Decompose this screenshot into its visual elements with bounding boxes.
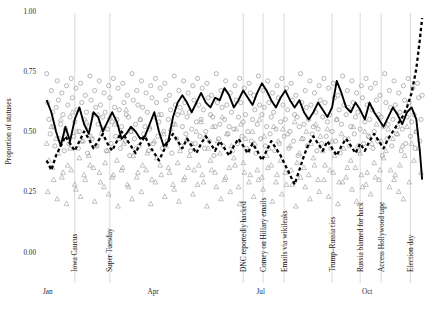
scatter-point — [275, 84, 279, 88]
scatter-point — [257, 103, 261, 107]
scatter-point — [163, 81, 167, 85]
scatter-point — [55, 79, 59, 83]
scatter-point — [166, 117, 170, 121]
scatter-point — [339, 122, 343, 126]
scatter-point — [45, 72, 49, 76]
scatter-point — [326, 86, 330, 90]
scatter-point — [317, 84, 321, 88]
scatter-point — [176, 113, 180, 117]
scatter-point — [181, 79, 185, 83]
scatter-point — [255, 167, 260, 171]
scatter-point — [227, 125, 231, 129]
scatter-point — [215, 100, 219, 104]
scatter-point — [48, 132, 52, 136]
scatter-point — [159, 172, 164, 176]
scatter-point — [97, 170, 102, 174]
scatter-point — [286, 108, 290, 112]
scatter-point — [94, 105, 98, 109]
scatter-point — [304, 105, 308, 109]
scatter-point — [287, 146, 291, 150]
scatter-point — [399, 149, 403, 153]
scatter-point — [246, 129, 250, 133]
scatter-point — [130, 72, 134, 76]
scatter-point — [298, 72, 302, 76]
scatter-point — [274, 180, 279, 184]
scatter-point — [353, 115, 357, 119]
scatter-point — [373, 81, 377, 85]
scatter-point — [122, 100, 126, 104]
scatter-point — [248, 172, 253, 176]
scatter-point — [219, 196, 224, 200]
scatter-point — [415, 81, 419, 85]
scatter-point — [302, 122, 306, 126]
scatter-point — [171, 182, 176, 186]
scatter-point — [227, 165, 232, 169]
scatter-point — [205, 204, 210, 208]
y-axis-tick-label: 0.75 — [23, 68, 36, 76]
scatter-point — [353, 165, 358, 169]
scatter-point — [175, 160, 180, 164]
scatter-point — [345, 88, 349, 92]
scatter-point — [402, 153, 407, 157]
scatter-point — [60, 91, 64, 95]
scatter-point — [368, 192, 373, 196]
scatter-point — [59, 175, 64, 179]
scatter-point — [238, 76, 242, 80]
scatter-point — [117, 108, 121, 112]
scatter-point — [283, 170, 288, 174]
scatter-point — [116, 204, 121, 208]
event-label: Emails via wikileaks — [280, 210, 289, 272]
scatter-point — [360, 96, 364, 100]
scatter-point — [56, 98, 60, 102]
scatter-point — [391, 136, 396, 140]
scatter-point — [149, 84, 153, 88]
scatter-point — [133, 122, 137, 126]
scatter-point — [412, 158, 417, 162]
scatter-point — [132, 137, 136, 141]
scatter-point — [280, 76, 284, 80]
x-axis-tick-label: Oct — [362, 288, 372, 296]
scatter-point — [271, 124, 276, 128]
scatter-point — [195, 76, 199, 80]
scatter-point — [255, 122, 259, 126]
scatter-point — [211, 115, 215, 119]
scatter-point — [228, 189, 233, 193]
scatter-point — [403, 98, 407, 102]
scatter-point — [77, 155, 82, 159]
scatter-point — [185, 115, 189, 119]
scatter-point — [62, 149, 66, 153]
scatter-point — [325, 126, 330, 130]
scatter-point — [98, 180, 103, 184]
scatter-point — [124, 113, 128, 117]
scatter-point — [111, 76, 115, 80]
scatter-point — [293, 204, 298, 208]
scatter-point — [242, 170, 247, 174]
scatter-point — [119, 125, 123, 129]
scatter-point — [70, 110, 75, 114]
scatter-point — [112, 105, 116, 109]
scatter-point — [51, 177, 56, 181]
scatter-point — [190, 127, 194, 131]
scatter-point — [121, 81, 125, 85]
event-label: Iowa Caucus — [70, 233, 79, 272]
scatter-point — [82, 172, 87, 176]
scatter-point — [288, 143, 293, 147]
scatter-point — [401, 196, 406, 200]
scatter-point — [392, 177, 397, 181]
scatter-point — [197, 103, 201, 107]
scatter-point — [210, 93, 214, 97]
scatter-point — [279, 120, 283, 124]
scatter-point — [212, 154, 216, 158]
scatter-point — [151, 141, 155, 145]
scatter-point — [90, 137, 94, 141]
scatter-point — [247, 180, 252, 184]
scatter-point — [170, 151, 174, 155]
scatter-point — [97, 79, 101, 83]
scatter-point — [61, 170, 66, 174]
scatter-point — [114, 134, 118, 138]
scatter-point — [388, 167, 393, 171]
scatter-point — [225, 103, 229, 107]
scatter-point — [134, 175, 139, 179]
scatter-point — [167, 93, 171, 97]
scatter-point — [371, 146, 375, 150]
